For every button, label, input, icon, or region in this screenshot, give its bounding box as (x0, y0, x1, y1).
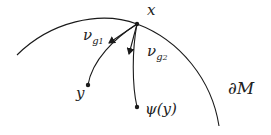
label-x: x (147, 3, 155, 18)
boundary-curve (17, 18, 219, 126)
nu-symbol: ν (147, 42, 156, 60)
label-nu-g2: νg2 (147, 44, 168, 62)
label-nu-g1: νg1 (83, 28, 104, 46)
point-psi-y (135, 105, 139, 109)
diagram-canvas (0, 0, 271, 135)
subscript-g1: g1 (92, 35, 104, 46)
label-boundary: ∂M (228, 80, 254, 97)
point-y (86, 83, 90, 87)
diagram-figure: x y ψ(y) νg1 νg2 ∂M (0, 0, 271, 135)
label-y: y (76, 86, 84, 101)
nu-symbol: ν (83, 26, 92, 44)
subscript-g2: g2 (156, 51, 168, 62)
label-psi-y: ψ(y) (145, 102, 177, 117)
point-x (135, 22, 139, 26)
